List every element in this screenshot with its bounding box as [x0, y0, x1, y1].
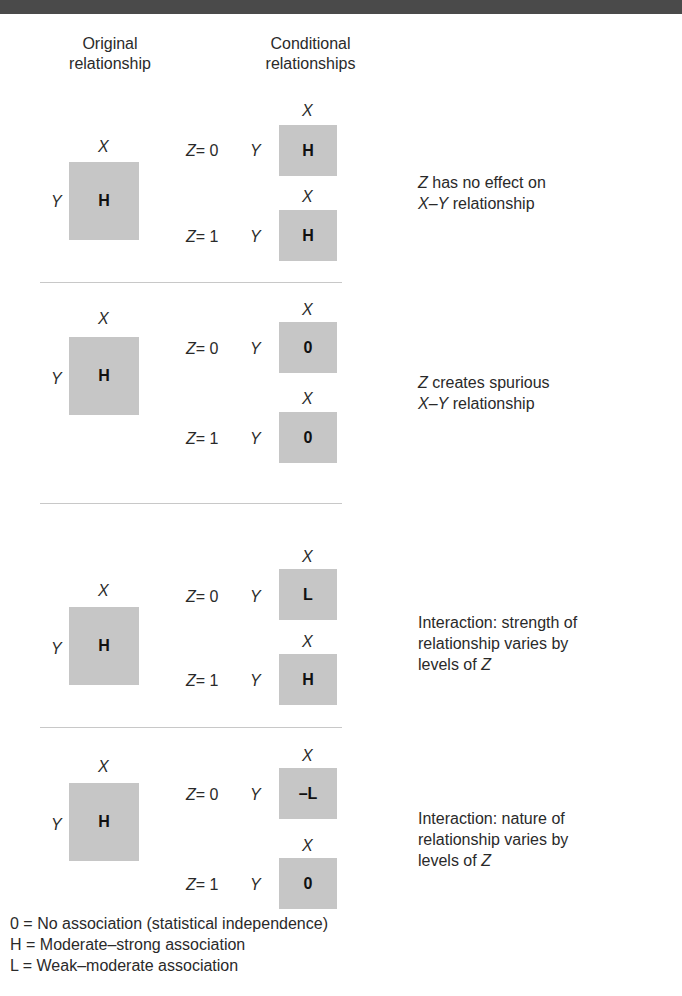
z-level-1: Z= 1 [186, 228, 218, 246]
panel-separator [40, 282, 342, 283]
panel-separator [40, 503, 342, 504]
x-label: X [302, 390, 313, 408]
z-level-0: Z= 0 [186, 142, 218, 160]
original-header-line2: relationship [55, 54, 165, 74]
x-label: X [302, 301, 313, 319]
conditional-cell-z0: 0 [279, 322, 337, 373]
original-cell: H [69, 162, 139, 240]
x-label: X [302, 633, 313, 651]
x-label: X [302, 548, 313, 566]
z-level-0: Z= 0 [186, 588, 218, 606]
x-label: X [98, 310, 109, 328]
conditional-cell-z0: –L [279, 768, 337, 819]
y-label: Y [51, 640, 62, 658]
z-level-0: Z= 0 [186, 786, 218, 804]
panel-description: Z creates spurious X–Y relationship [418, 372, 550, 414]
conditional-cell-z0: L [279, 569, 337, 620]
y-label: Y [250, 588, 261, 606]
y-label: Y [250, 430, 261, 448]
original-cell: H [69, 337, 139, 415]
z-level-0: Z= 0 [186, 340, 218, 358]
x-label: X [302, 102, 313, 120]
panel-description: Interaction: nature of relationship vari… [418, 808, 568, 871]
z-level-1: Z= 1 [186, 672, 218, 690]
y-label: Y [250, 672, 261, 690]
legend: 0 = No association (statistical independ… [10, 913, 328, 976]
conditional-cell-z1: 0 [279, 412, 337, 463]
conditional-header-line1: Conditional [248, 34, 373, 54]
x-label: X [302, 837, 313, 855]
original-header-line1: Original [55, 34, 165, 54]
original-relationship-header: Original relationship [55, 34, 165, 74]
y-label: Y [250, 142, 261, 160]
conditional-relationships-header: Conditional relationships [248, 34, 373, 74]
y-label: Y [250, 340, 261, 358]
y-label: Y [51, 370, 62, 388]
z-level-1: Z= 1 [186, 430, 218, 448]
x-label: X [98, 138, 109, 156]
y-label: Y [250, 228, 261, 246]
legend-item-high: H = Moderate–strong association [10, 934, 328, 955]
y-label: Y [51, 193, 62, 211]
x-label: X [302, 188, 313, 206]
legend-item-low: L = Weak–moderate association [10, 955, 328, 976]
y-label: Y [250, 876, 261, 894]
original-cell: H [69, 607, 139, 685]
conditional-cell-z0: H [279, 125, 337, 176]
x-label: X [98, 758, 109, 776]
y-label: Y [250, 786, 261, 804]
conditional-cell-z1: 0 [279, 858, 337, 909]
conditional-cell-z1: H [279, 654, 337, 705]
z-level-1: Z= 1 [186, 876, 218, 894]
panel-description: Interaction: strength of relationship va… [418, 612, 577, 675]
panel-separator [40, 727, 342, 728]
conditional-cell-z1: H [279, 210, 337, 261]
panel-description: Z has no effect on X–Y relationship [418, 172, 546, 214]
title-band [0, 0, 682, 14]
x-label: X [302, 747, 313, 765]
original-cell: H [69, 783, 139, 861]
conditional-header-line2: relationships [248, 54, 373, 74]
legend-item-zero: 0 = No association (statistical independ… [10, 913, 328, 934]
x-label: X [98, 582, 109, 600]
y-label: Y [51, 816, 62, 834]
